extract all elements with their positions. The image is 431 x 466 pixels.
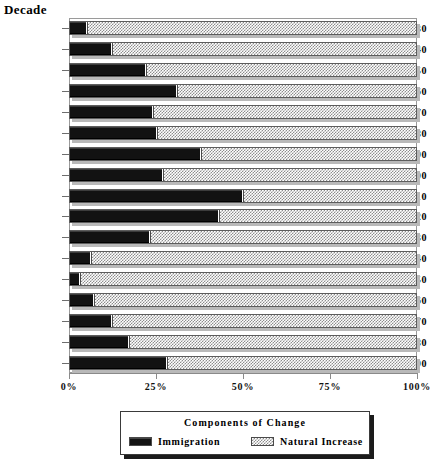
bar-stack[interactable] [69,356,417,370]
bar-row [69,126,417,140]
bar-segment-immigration[interactable] [70,190,243,202]
category-tick [62,70,69,71]
category-tick [62,216,69,217]
legend-item-natural-increase[interactable]: Natural Increase [251,436,363,447]
bar-segment-natural-increase[interactable] [163,169,416,181]
bar-segment-natural-increase[interactable] [167,357,416,369]
x-axis-tick-label: 50% [232,381,254,392]
bar-row [69,335,417,349]
category-tick [62,175,69,176]
x-axis-tick-label: 100% [403,381,431,392]
bar-segment-immigration[interactable] [70,22,87,34]
x-axis-tick-label: 75% [319,381,341,392]
bar-segment-natural-increase[interactable] [80,273,416,285]
bar-row [69,105,417,119]
category-tick [62,28,69,29]
bar-stack[interactable] [69,251,417,265]
bar-stack[interactable] [69,209,417,223]
category-tick [62,279,69,280]
bar-stack[interactable] [69,230,417,244]
bar-segment-natural-increase[interactable] [112,43,416,55]
bar-segment-natural-increase[interactable] [201,148,416,160]
bar-segment-immigration[interactable] [70,294,94,306]
bar-segment-immigration[interactable] [70,210,219,222]
bar-stack[interactable] [69,42,417,56]
legend-title: Components of Change [121,417,369,428]
category-tick [62,342,69,343]
bar-stack[interactable] [69,293,417,307]
bar-stack[interactable] [69,126,417,140]
category-tick [62,321,69,322]
bar-segment-immigration[interactable] [70,273,80,285]
bar-stack[interactable] [69,63,417,77]
bar-stack[interactable] [69,272,417,286]
bar-segment-immigration[interactable] [70,106,153,118]
bar-segment-natural-increase[interactable] [91,252,416,264]
legend-items: Immigration Natural Increase [129,436,363,447]
bar-row [69,189,417,203]
bar-stack[interactable] [69,21,417,35]
bar-segment-natural-increase[interactable] [243,190,416,202]
category-tick [62,196,69,197]
bar-row [69,42,417,56]
bar-stack[interactable] [69,335,417,349]
category-tick [62,237,69,238]
x-axis-tick-label: 0% [61,381,78,392]
bar-stack[interactable] [69,168,417,182]
bar-segment-immigration[interactable] [70,148,201,160]
category-tick [62,300,69,301]
category-tick [62,91,69,92]
legend-item-immigration[interactable]: Immigration [129,436,251,447]
bar-row [69,293,417,307]
bar-row [69,272,417,286]
category-tick [62,154,69,155]
bar-row [69,63,417,77]
x-axis-tick-label: 25% [145,381,167,392]
bar-row [69,168,417,182]
bar-segment-immigration[interactable] [70,85,177,97]
bar-segment-immigration[interactable] [70,336,129,348]
bar-segment-natural-increase[interactable] [177,85,416,97]
category-tick [62,258,69,259]
bar-segment-immigration[interactable] [70,127,157,139]
bar-row [69,21,417,35]
bar-segment-natural-increase[interactable] [146,64,416,76]
category-tick [62,112,69,113]
category-tick [62,363,69,364]
bar-segment-immigration[interactable] [70,43,112,55]
x-axis-tick [69,373,70,379]
bar-stack[interactable] [69,105,417,119]
legend-swatch-natural-increase-icon [251,437,274,446]
bar-segment-immigration[interactable] [70,169,163,181]
bar-row [69,209,417,223]
bar-stack[interactable] [69,189,417,203]
y-axis-title: Decade [4,2,47,18]
bar-segment-immigration[interactable] [70,231,150,243]
bar-segment-natural-increase[interactable] [129,336,416,348]
bar-segment-immigration[interactable] [70,357,167,369]
bar-segment-natural-increase[interactable] [219,210,416,222]
category-tick [62,49,69,50]
bar-row [69,84,417,98]
bar-stack[interactable] [69,147,417,161]
x-axis-tick [417,373,418,379]
bar-segment-natural-increase[interactable] [87,22,416,34]
bar-segment-natural-increase[interactable] [112,315,416,327]
legend-swatch-immigration-icon [129,437,152,446]
bar-row [69,314,417,328]
x-axis-tick [243,373,244,379]
category-tick [62,133,69,134]
bar-segment-immigration[interactable] [70,315,112,327]
bar-stack[interactable] [69,314,417,328]
bar-row [69,147,417,161]
bar-segment-immigration[interactable] [70,64,146,76]
bar-segment-natural-increase[interactable] [94,294,416,306]
legend-label-immigration: Immigration [158,436,220,447]
legend-label-natural-increase: Natural Increase [280,436,363,447]
bar-segment-natural-increase[interactable] [150,231,416,243]
bar-segment-immigration[interactable] [70,252,91,264]
bar-stack[interactable] [69,84,417,98]
bar-segment-natural-increase[interactable] [157,127,417,139]
bar-segment-natural-increase[interactable] [153,106,416,118]
